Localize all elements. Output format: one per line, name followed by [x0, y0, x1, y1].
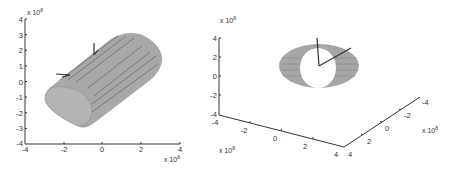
left-plot: 4 3 2 1 0 -1 -2 -3 -4 x 108 -4 -2 0 2 4	[16, 7, 182, 163]
svg-text:4: 4	[213, 34, 217, 43]
svg-text:4: 4	[334, 150, 338, 159]
right-y-multiplier: x 108	[422, 125, 438, 134]
svg-text:-2: -2	[61, 145, 68, 154]
svg-text:-4: -4	[212, 118, 219, 127]
svg-text:0: 0	[385, 124, 389, 133]
left-y-multiplier: x 108	[27, 7, 43, 16]
right-y-tick-labels: 4 2 0 -2 -4	[348, 98, 429, 159]
left-y-tick-labels: 4 3 2 1 0 -1 -2 -3 -4	[16, 15, 23, 148]
right-z-tick-labels: 4 2 0 -2 -4	[210, 34, 217, 119]
svg-text:4: 4	[178, 145, 182, 154]
svg-text:0: 0	[273, 134, 277, 143]
svg-text:-4: -4	[22, 145, 29, 154]
svg-text:2: 2	[139, 145, 143, 154]
svg-text:-3: -3	[16, 124, 23, 133]
right-y-ticks	[361, 109, 401, 135]
figure: 4 3 2 1 0 -1 -2 -3 -4 x 108 -4 -2 0 2 4	[0, 0, 452, 174]
svg-text:-2: -2	[210, 91, 217, 100]
svg-text:4: 4	[348, 150, 352, 159]
svg-text:0: 0	[213, 72, 217, 81]
left-x-tick-labels: -4 -2 0 2 4	[22, 145, 182, 154]
svg-text:2: 2	[367, 137, 371, 146]
right-z-multiplier: x 108	[220, 15, 236, 24]
svg-text:-1: -1	[16, 93, 23, 102]
svg-text:-2: -2	[16, 109, 23, 118]
svg-text:4: 4	[19, 15, 23, 24]
right-plot: 4 2 0 -2 -4 x 108 -4 -2 0 2 4 x 108	[210, 15, 438, 159]
right-x-multiplier: x 108	[219, 145, 235, 154]
left-x-multiplier: x 108	[164, 154, 180, 163]
svg-text:3: 3	[19, 31, 23, 40]
svg-text:-2: -2	[241, 126, 248, 135]
cylinder-surface	[45, 33, 162, 127]
svg-text:2: 2	[213, 53, 217, 62]
svg-text:-2: -2	[404, 111, 411, 120]
svg-text:2: 2	[19, 46, 23, 55]
svg-text:0: 0	[100, 145, 104, 154]
svg-text:-4: -4	[422, 98, 429, 107]
svg-text:1: 1	[19, 62, 23, 71]
svg-text:2: 2	[303, 142, 307, 151]
svg-text:0: 0	[19, 78, 23, 87]
